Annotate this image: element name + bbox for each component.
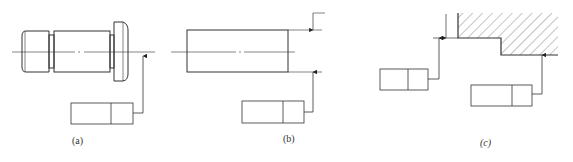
shaft-left-section <box>22 31 49 72</box>
leader-c1 <box>428 38 439 79</box>
hatched-part <box>458 13 558 55</box>
leader-a <box>133 56 143 113</box>
cylinder <box>187 30 288 72</box>
feature-control-frame-c2 <box>471 85 532 106</box>
panel-b <box>171 13 325 123</box>
panel-label-c: (c) <box>480 137 491 148</box>
panel-label-b: (b) <box>283 133 295 144</box>
feature-control-frame-b <box>242 101 304 123</box>
shaft-groove <box>49 35 54 68</box>
shaft-head <box>114 22 128 81</box>
shaft-body <box>54 31 110 72</box>
panel-a <box>12 22 155 124</box>
leader-c2 <box>532 55 542 94</box>
panel-c <box>380 13 558 106</box>
leader-b <box>304 72 313 112</box>
feature-control-frame-c1 <box>380 69 428 90</box>
panel-label-a: (a) <box>72 135 83 146</box>
feature-control-frame-a <box>71 103 133 124</box>
